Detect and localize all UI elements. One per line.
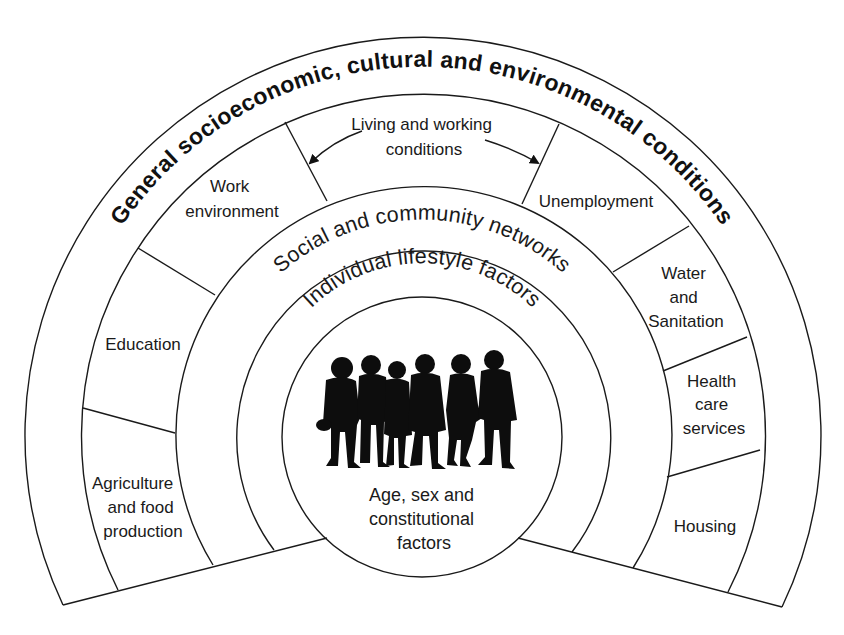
arrow-right-icon [485, 140, 538, 163]
segment-water-sanitation: Water and Sanitation [648, 264, 724, 331]
divider-health-housing [667, 450, 760, 477]
divider-education-work [138, 248, 215, 295]
person-silhouette-icon [408, 354, 446, 469]
segment-work-environment: Work environment [185, 177, 279, 221]
person-silhouette-icon [478, 350, 517, 469]
determinants-of-health-diagram: General socioeconomic, cultural and envi… [0, 0, 844, 635]
divider-work-living [285, 122, 327, 201]
arrow-left-icon [310, 131, 362, 163]
individual-lifestyle-label: Individual lifestyle factors [298, 244, 545, 312]
person-silhouette-icon [384, 361, 412, 468]
bottom-edge-right [518, 538, 782, 607]
person-silhouette-icon [446, 354, 482, 467]
person-silhouette-icon [316, 357, 361, 468]
divider-water-health [663, 337, 747, 371]
segment-agriculture: Agriculture and food production [92, 474, 183, 541]
living-working-label: Living and working conditions [351, 115, 497, 159]
segment-health-care: Health care services [683, 372, 745, 438]
segment-education: Education [105, 335, 181, 354]
core-label: Age, sex and constitutional factors [369, 485, 479, 553]
divider-agriculture-education [83, 408, 175, 433]
people-silhouettes-icon [316, 350, 517, 469]
segment-housing: Housing [674, 517, 736, 536]
segment-unemployment: Unemployment [539, 192, 654, 211]
bottom-edge-left [63, 538, 327, 605]
